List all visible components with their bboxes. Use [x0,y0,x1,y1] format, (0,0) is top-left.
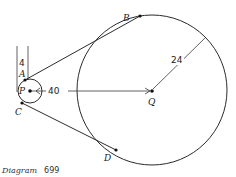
point-b [138,14,141,17]
point-c [20,101,23,104]
label-a: A [18,69,26,79]
point-p [28,89,32,93]
tangent-line-ab [25,16,140,80]
caption: Diagram 699 [1,159,59,176]
label-c: C [15,107,22,117]
label-b: B [122,13,130,23]
point-q [150,89,154,93]
distance-label: 40 [48,86,60,96]
gap-label: 4 [19,58,25,68]
caption-word: Diagram [1,166,37,175]
diagram-canvas: 4 A P C B Q D 40 24 Diagram 699 [0,0,236,177]
point-d [114,148,117,151]
label-q: Q [148,97,156,107]
caption-number: 699 [44,166,59,175]
label-p: P [18,86,26,96]
radius-label: 24 [171,55,183,65]
label-d: D [103,153,111,163]
tangent-line-cd [22,103,116,150]
